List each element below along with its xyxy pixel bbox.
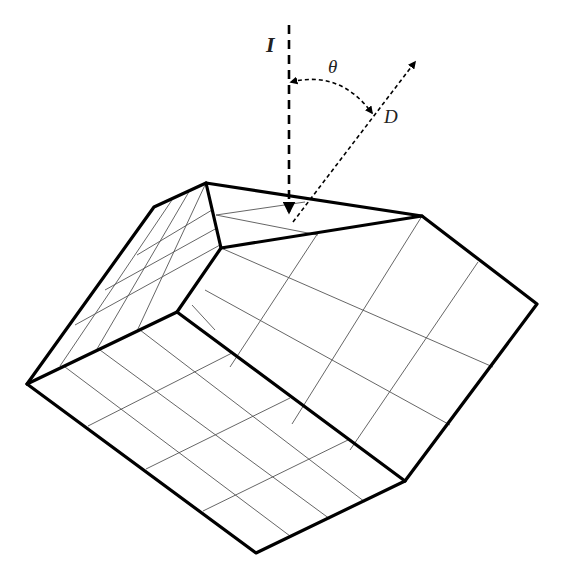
direction-vector (293, 62, 415, 222)
direction-label: D (383, 106, 398, 127)
angle-arc (291, 79, 372, 113)
left-face-grid (60, 185, 220, 366)
incident-label: I (265, 32, 276, 57)
solid-edges (27, 183, 537, 553)
right-face-grid (192, 216, 493, 450)
diagram-canvas: I θ D (0, 0, 563, 579)
top-facet-grid (216, 202, 318, 235)
angle-label: θ (328, 56, 337, 77)
bottom-face-grid (65, 330, 365, 536)
